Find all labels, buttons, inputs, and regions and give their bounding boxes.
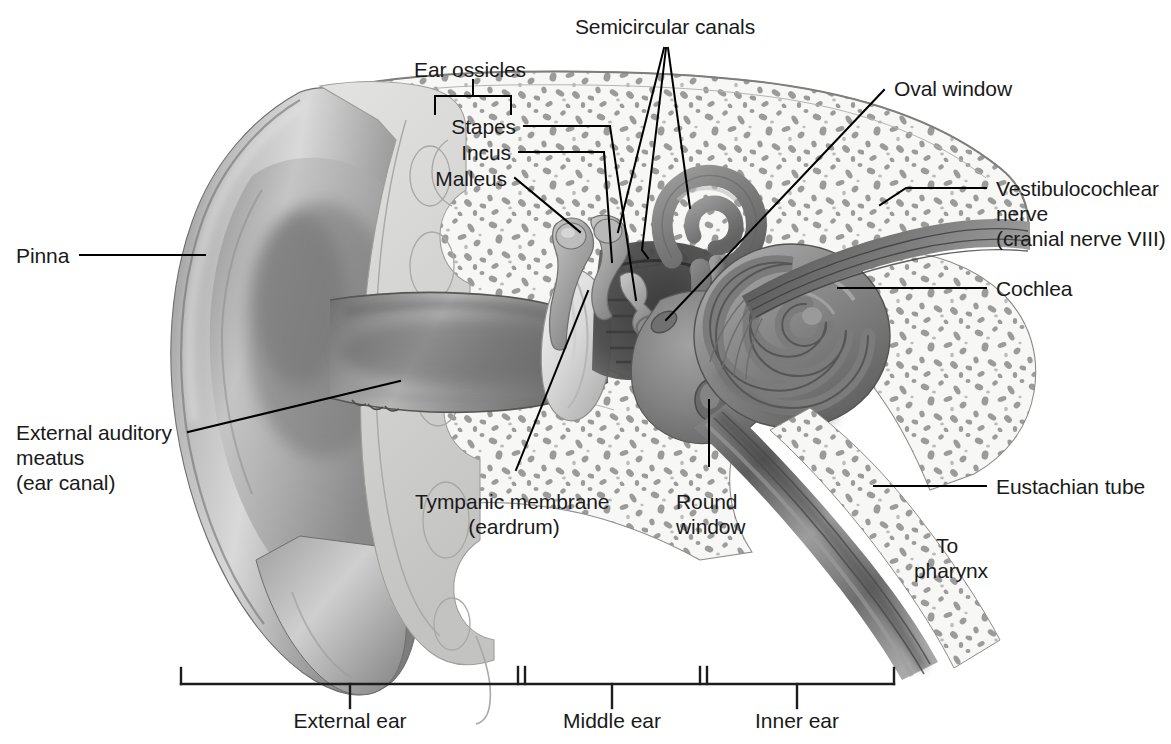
label-tympanic-membrane-line1: Tympanic membrane <box>415 489 609 514</box>
label-pinna: Pinna <box>16 243 69 268</box>
anatomy-artwork <box>0 0 1171 744</box>
label-round-window-line2: window <box>676 514 745 539</box>
scale-label-middle-ear: Middle ear <box>527 709 697 733</box>
label-vestibulocochlear-nerve-line2: nerve <box>996 201 1048 226</box>
label-semicircular-canals: Semicircular canals <box>483 14 847 39</box>
label-external-auditory-meatus-line1: External auditory <box>16 420 172 445</box>
label-malleus: Malleus <box>324 166 507 191</box>
label-vestibulocochlear-nerve-line1: Vestibulocochlear <box>996 176 1159 201</box>
scale-label-inner-ear: Inner ear <box>717 709 877 733</box>
label-tympanic-membrane-line2: (eardrum) <box>415 514 613 539</box>
scale-label-external-ear: External ear <box>250 709 450 733</box>
label-stapes: Stapes <box>324 114 516 139</box>
label-incus: Incus <box>324 140 511 165</box>
ear-anatomy-figure: Semicircular canals Ear ossicles Stapes … <box>0 0 1171 744</box>
label-external-auditory-meatus-line3: (ear canal) <box>16 470 115 495</box>
label-to-pharynx-line2: pharynx <box>914 558 988 583</box>
label-oval-window: Oval window <box>894 76 1012 101</box>
label-eustachian-tube: Eustachian tube <box>996 474 1145 499</box>
label-ear-ossicles: Ear ossicles <box>414 57 526 82</box>
label-external-auditory-meatus-line2: meatus <box>16 445 84 470</box>
label-round-window-line1: Round <box>676 489 737 514</box>
anatomy-illustration <box>0 0 1171 744</box>
label-vestibulocochlear-nerve-line3: (cranial nerve VIII) <box>996 226 1166 251</box>
label-cochlea: Cochlea <box>996 276 1072 301</box>
label-to-pharynx-line1: To <box>936 533 958 558</box>
